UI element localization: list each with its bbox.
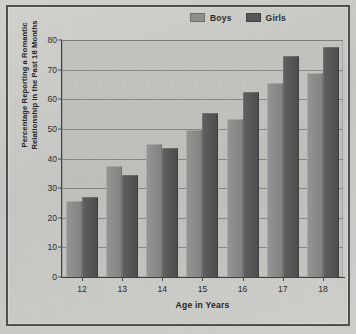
bar-girls-age-17 xyxy=(283,56,299,277)
y-tick-label: 20 xyxy=(47,213,57,223)
y-axis-title-line-1: Percentage Reporting a Romantic xyxy=(20,22,31,147)
legend-item-boys: Boys xyxy=(190,13,232,23)
x-tick-mark xyxy=(323,277,324,281)
x-tick-label: 14 xyxy=(158,284,168,294)
bar-girls-age-13 xyxy=(122,175,138,277)
x-tick-label: 18 xyxy=(318,284,328,294)
y-tick-label: 40 xyxy=(47,154,57,164)
x-tick-mark xyxy=(202,277,203,281)
legend-item-girls: Girls xyxy=(246,13,286,23)
legend-label-boys: Boys xyxy=(210,13,232,23)
bar-group: 17 xyxy=(263,40,303,277)
y-tick-label: 60 xyxy=(47,94,57,104)
bar-group: 14 xyxy=(142,40,182,277)
legend-label-girls: Girls xyxy=(266,13,286,23)
bar-boys-age-17 xyxy=(267,83,283,277)
bar-girls-age-16 xyxy=(243,92,259,277)
x-tick-label: 15 xyxy=(198,284,208,294)
x-axis-title: Age in Years xyxy=(62,300,343,310)
bar-group: 13 xyxy=(102,40,142,277)
bar-group: 18 xyxy=(303,40,343,277)
y-tick-label: 0 xyxy=(52,272,57,282)
bar-girls-age-14 xyxy=(162,148,178,277)
x-tick-mark xyxy=(162,277,163,281)
bar-boys-age-16 xyxy=(227,119,243,277)
x-tick-mark xyxy=(283,277,284,281)
bar-boys-age-15 xyxy=(186,130,202,277)
y-tick-label: 10 xyxy=(47,242,57,252)
y-tick-label: 80 xyxy=(47,35,57,45)
chart-legend: Boys Girls xyxy=(190,11,286,24)
x-tick-mark xyxy=(122,277,123,281)
plot-area: 01020304050607080 12131415161718 xyxy=(62,40,343,277)
girls-swatch-icon xyxy=(246,13,261,22)
boys-swatch-icon xyxy=(190,13,205,22)
bar-group: 12 xyxy=(62,40,102,277)
x-tick-mark xyxy=(243,277,244,281)
bar-boys-age-13 xyxy=(106,166,122,277)
bar-boys-age-14 xyxy=(146,144,162,277)
x-tick-label: 12 xyxy=(77,284,87,294)
bar-boys-age-18 xyxy=(307,73,323,277)
bar-boys-age-12 xyxy=(66,201,82,277)
y-tick-label: 70 xyxy=(47,65,57,75)
y-axis-title-line-2: Relationship in the Past 18 Months xyxy=(30,20,41,149)
x-tick-label: 16 xyxy=(238,284,248,294)
x-tick-label: 13 xyxy=(117,284,127,294)
x-tick-mark xyxy=(82,277,83,281)
bar-girls-age-15 xyxy=(202,113,218,277)
y-tick-label: 30 xyxy=(47,183,57,193)
x-tick-label: 17 xyxy=(278,284,288,294)
y-axis-title: Percentage Reporting a Romantic Relation… xyxy=(18,0,42,200)
bar-groups: 12131415161718 xyxy=(62,40,343,277)
figure-page: Boys Girls Percentage Reporting a Romant… xyxy=(0,0,356,334)
bar-group: 16 xyxy=(223,40,263,277)
bar-girls-age-12 xyxy=(82,197,98,277)
bar-group: 15 xyxy=(182,40,222,277)
bar-girls-age-18 xyxy=(323,47,339,277)
y-tick-label: 50 xyxy=(47,124,57,134)
